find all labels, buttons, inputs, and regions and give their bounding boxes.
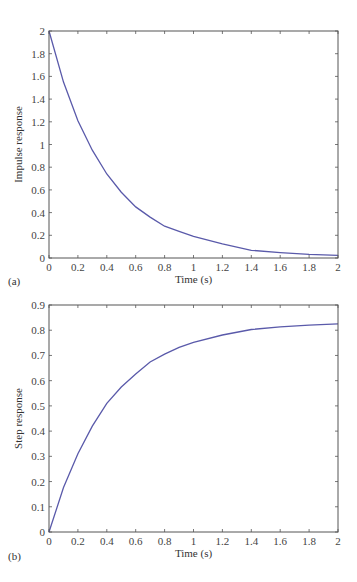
x-tick-label: 1.2 — [216, 535, 230, 547]
y-tick-label: 0.8 — [31, 161, 45, 173]
y-tick-label: 0.3 — [31, 450, 45, 462]
x-tick-label: 1.2 — [216, 261, 230, 273]
y-tick-label: 2 — [40, 25, 46, 37]
x-tick-label: 1 — [191, 261, 197, 273]
step-x-axis-label: Time (s) — [175, 547, 213, 560]
y-tick-label: 0.4 — [31, 207, 45, 219]
x-tick-label: 0.6 — [129, 535, 143, 547]
impulse-x-axis-label: Time (s) — [175, 273, 213, 286]
x-tick-label: 1.4 — [244, 261, 258, 273]
step-response-chart: 00.20.40.60.811.21.41.61.8200.10.20.30.4… — [8, 299, 341, 563]
impulse-y-axis-label: Impulse response — [12, 106, 24, 183]
impulse-response-line — [49, 31, 338, 255]
step-response-line — [49, 324, 338, 532]
y-tick-label: 1.8 — [31, 48, 45, 60]
y-tick-label: 0.1 — [31, 501, 45, 513]
step-y-axis-label: Step response — [12, 388, 24, 449]
x-tick-label: 0 — [46, 261, 52, 273]
step-axis-ticks: 00.20.40.60.811.21.41.61.8200.10.20.30.4… — [31, 299, 341, 547]
x-tick-label: 0 — [46, 535, 52, 547]
x-tick-label: 0.8 — [158, 261, 172, 273]
y-tick-label: 0.6 — [31, 184, 45, 196]
y-tick-label: 0.2 — [31, 229, 45, 241]
impulse-response-chart: 00.20.40.60.811.21.41.61.8200.20.40.60.8… — [8, 25, 341, 288]
x-tick-label: 1.8 — [302, 535, 316, 547]
impulse-axis-ticks: 00.20.40.60.811.21.41.61.8200.20.40.60.8… — [31, 25, 341, 273]
y-tick-label: 0.6 — [31, 375, 45, 387]
y-tick-label: 1 — [40, 139, 46, 151]
x-tick-label: 0.4 — [100, 261, 114, 273]
y-tick-label: 0.9 — [31, 299, 45, 311]
y-tick-label: 0 — [40, 526, 46, 538]
impulse-plot-frame — [49, 31, 338, 258]
y-tick-label: 0 — [40, 252, 46, 264]
x-tick-label: 0.6 — [129, 261, 143, 273]
panel-label-a: (a) — [8, 275, 21, 288]
step-plot-frame — [49, 305, 338, 532]
y-tick-label: 0.7 — [31, 349, 45, 361]
y-tick-label: 0.8 — [31, 324, 45, 336]
x-tick-label: 1.6 — [273, 535, 287, 547]
x-tick-label: 1 — [191, 535, 197, 547]
y-tick-label: 1.2 — [31, 116, 45, 128]
y-tick-label: 1.6 — [31, 70, 45, 82]
x-tick-label: 0.2 — [71, 535, 85, 547]
x-tick-label: 1.8 — [302, 261, 316, 273]
y-tick-label: 0.2 — [31, 476, 45, 488]
x-tick-label: 0.2 — [71, 261, 85, 273]
y-tick-label: 0.5 — [31, 400, 45, 412]
y-tick-label: 0.4 — [31, 425, 45, 437]
x-tick-label: 0.4 — [100, 535, 114, 547]
x-tick-label: 0.8 — [158, 535, 172, 547]
y-tick-label: 1.4 — [31, 93, 45, 105]
x-tick-label: 2 — [335, 535, 341, 547]
x-tick-label: 1.6 — [273, 261, 287, 273]
figure: 00.20.40.60.811.21.41.61.8200.20.40.60.8… — [0, 0, 357, 582]
x-tick-label: 2 — [335, 261, 341, 273]
x-tick-label: 1.4 — [244, 535, 258, 547]
panel-label-b: (b) — [8, 550, 21, 563]
